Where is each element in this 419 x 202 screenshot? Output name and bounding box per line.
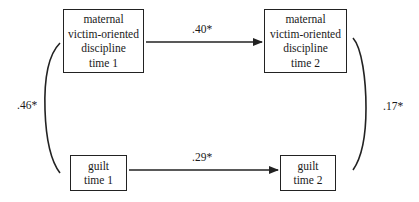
coef-guilt-stability: .29*: [192, 151, 212, 163]
node-line: victim-oriented: [68, 27, 139, 42]
coef-time1-correlation: .46*: [17, 99, 37, 111]
node-line: guilt: [88, 159, 109, 174]
coef-discipline-stability: .40*: [192, 23, 212, 35]
node-line: time 2: [291, 56, 320, 71]
node-line: maternal: [285, 12, 325, 27]
curve-left-correlation: [45, 43, 60, 173]
node-line: guilt: [297, 159, 318, 174]
node-line: maternal: [83, 12, 123, 27]
node-line: discipline: [81, 41, 126, 56]
coef-time2-correlation: .17*: [383, 100, 403, 112]
node-line: time 1: [89, 56, 118, 71]
curve-right-correlation: [353, 38, 366, 170]
node-line: time 2: [293, 173, 322, 188]
node-discipline-time1: maternal victim-oriented discipline time…: [63, 9, 144, 73]
node-line: time 1: [84, 173, 113, 188]
node-discipline-time2: maternal victim-oriented discipline time…: [264, 9, 347, 73]
node-line: victim-oriented: [270, 27, 341, 42]
node-guilt-time2: guilt time 2: [280, 155, 336, 191]
node-guilt-time1: guilt time 1: [70, 155, 127, 191]
node-line: discipline: [283, 41, 328, 56]
